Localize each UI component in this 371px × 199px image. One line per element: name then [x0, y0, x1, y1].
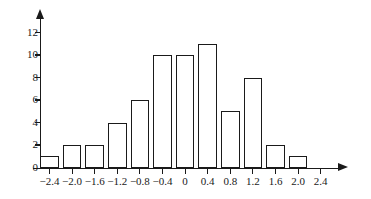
plot-area: 024681012 −2.4−2.0−1.6−1.2−0.8−0.400.40.…	[0, 0, 371, 199]
y-axis-tick-label: 10	[27, 49, 38, 60]
x-axis-tick-label: −1.6	[85, 176, 105, 187]
x-axis-tick-label: 1.6	[269, 176, 283, 187]
y-axis-tick-label: 6	[33, 94, 39, 105]
histogram-bar	[289, 156, 308, 167]
x-axis-tick-label: 2.0	[291, 176, 305, 187]
x-axis-tick	[207, 169, 208, 174]
y-axis-tick-label: 12	[27, 27, 38, 38]
histogram-figure: 024681012 −2.4−2.0−1.6−1.2−0.8−0.400.40.…	[0, 0, 371, 199]
x-axis-tick	[117, 169, 118, 174]
histogram-bar	[63, 145, 82, 168]
x-axis-tick	[252, 169, 253, 174]
x-axis-tick-label: 2.4	[314, 176, 328, 187]
y-axis-tick-label: 8	[33, 72, 39, 83]
histogram-bar	[153, 55, 172, 168]
histogram-bar	[244, 78, 263, 168]
x-axis-tick-label: −2.0	[62, 176, 82, 187]
x-axis-tick	[94, 169, 95, 174]
x-axis-tick	[185, 169, 186, 174]
x-axis-tick	[139, 169, 140, 174]
x-axis-tick	[298, 169, 299, 174]
x-axis-tick-label: −2.4	[40, 176, 60, 187]
histogram-bar	[266, 145, 285, 168]
histogram-bar	[85, 145, 104, 168]
y-axis-tick-label: 4	[33, 117, 39, 128]
x-axis-tick-label: 0	[182, 176, 188, 187]
histogram-bar	[108, 123, 127, 168]
histogram-bar	[221, 111, 240, 167]
y-axis-arrowhead-icon	[36, 9, 44, 19]
x-axis-tick-label: −1.2	[107, 176, 127, 187]
x-axis-tick-label: 0.8	[223, 176, 237, 187]
x-axis-tick	[49, 169, 50, 174]
x-axis-tick-label: 1.2	[246, 176, 260, 187]
x-axis-tick-label: −0.4	[153, 176, 173, 187]
histogram-bar	[176, 55, 195, 168]
histogram-bar	[131, 100, 150, 168]
x-axis-tick	[275, 169, 276, 174]
x-axis-tick	[72, 169, 73, 174]
y-axis-tick-label: 2	[33, 139, 39, 150]
histogram-bar	[40, 156, 59, 167]
x-axis-tick-label: −0.8	[130, 176, 150, 187]
histogram-bar	[198, 44, 217, 168]
x-axis-line	[33, 168, 339, 169]
x-axis-arrowhead-icon	[338, 163, 348, 171]
y-axis-tick-label: 0	[33, 162, 39, 173]
x-axis-tick	[320, 169, 321, 174]
x-axis-tick	[162, 169, 163, 174]
x-axis-tick	[230, 169, 231, 174]
x-axis-tick-label: 0.4	[201, 176, 215, 187]
